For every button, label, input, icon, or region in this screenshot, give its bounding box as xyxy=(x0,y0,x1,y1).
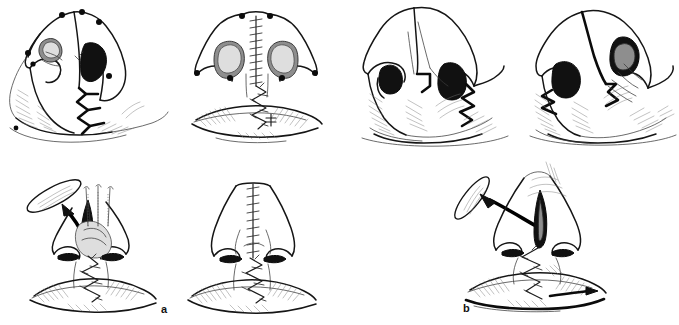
illustration-a2-basal-sutured xyxy=(182,2,332,147)
illustration-a2-drawing xyxy=(182,2,332,147)
a3-lip-zigzag-suture xyxy=(80,254,102,302)
illustration-b1-drawing xyxy=(352,2,517,147)
a4-lip-zigzag-suture xyxy=(242,255,266,303)
a2-lip-crossing-suture xyxy=(266,114,276,126)
illustration-a4-drawing xyxy=(178,172,328,307)
illustration-b1-oblique-flap xyxy=(352,2,517,147)
a3-nasal-tip xyxy=(75,221,111,258)
illustration-a4-frontal-closed xyxy=(178,172,328,307)
a2-nostril-right xyxy=(268,41,298,78)
panel-label-b: b xyxy=(463,303,470,314)
b3-transfer-arrow xyxy=(480,194,536,226)
a2-lip-body xyxy=(192,106,322,143)
b1-hatching xyxy=(369,94,496,135)
a1-nostril-left-shaded xyxy=(39,39,62,63)
a3-excised-tissue-ellipse xyxy=(23,174,84,218)
b2-nostril-left-dark xyxy=(552,62,581,98)
figure-canvas: a b xyxy=(0,0,679,325)
illustration-b2-drawing xyxy=(522,2,679,147)
illustration-a3-frontal-excision xyxy=(18,172,168,307)
b3-lip-lower-arrow xyxy=(550,287,598,296)
illustration-b3-frontal-excision xyxy=(440,160,610,310)
b3-defect-spindle xyxy=(534,190,547,248)
b2-nostril-right-dark xyxy=(610,37,639,76)
illustration-b2-oblique-closure xyxy=(522,2,679,147)
a1-nose-outline xyxy=(10,12,126,118)
a3-lip-body xyxy=(30,262,156,312)
a4-dorsal-suture-line xyxy=(247,184,259,258)
a2-columella-suture xyxy=(250,16,262,86)
a2-nostril-left xyxy=(214,41,244,78)
illustration-a3-drawing xyxy=(18,172,168,307)
b3-lip-hatching xyxy=(472,265,589,307)
illustration-a1-oblique-markings xyxy=(2,2,182,147)
illustration-a1-drawing xyxy=(2,2,182,147)
illustration-b3-drawing xyxy=(440,160,610,310)
panel-label-a: a xyxy=(161,304,167,315)
b3-nostril-sills xyxy=(502,249,574,256)
a1-hatching xyxy=(16,90,144,134)
b1-nostril-left-dark xyxy=(377,65,402,98)
a2-columella-outline xyxy=(246,74,268,97)
